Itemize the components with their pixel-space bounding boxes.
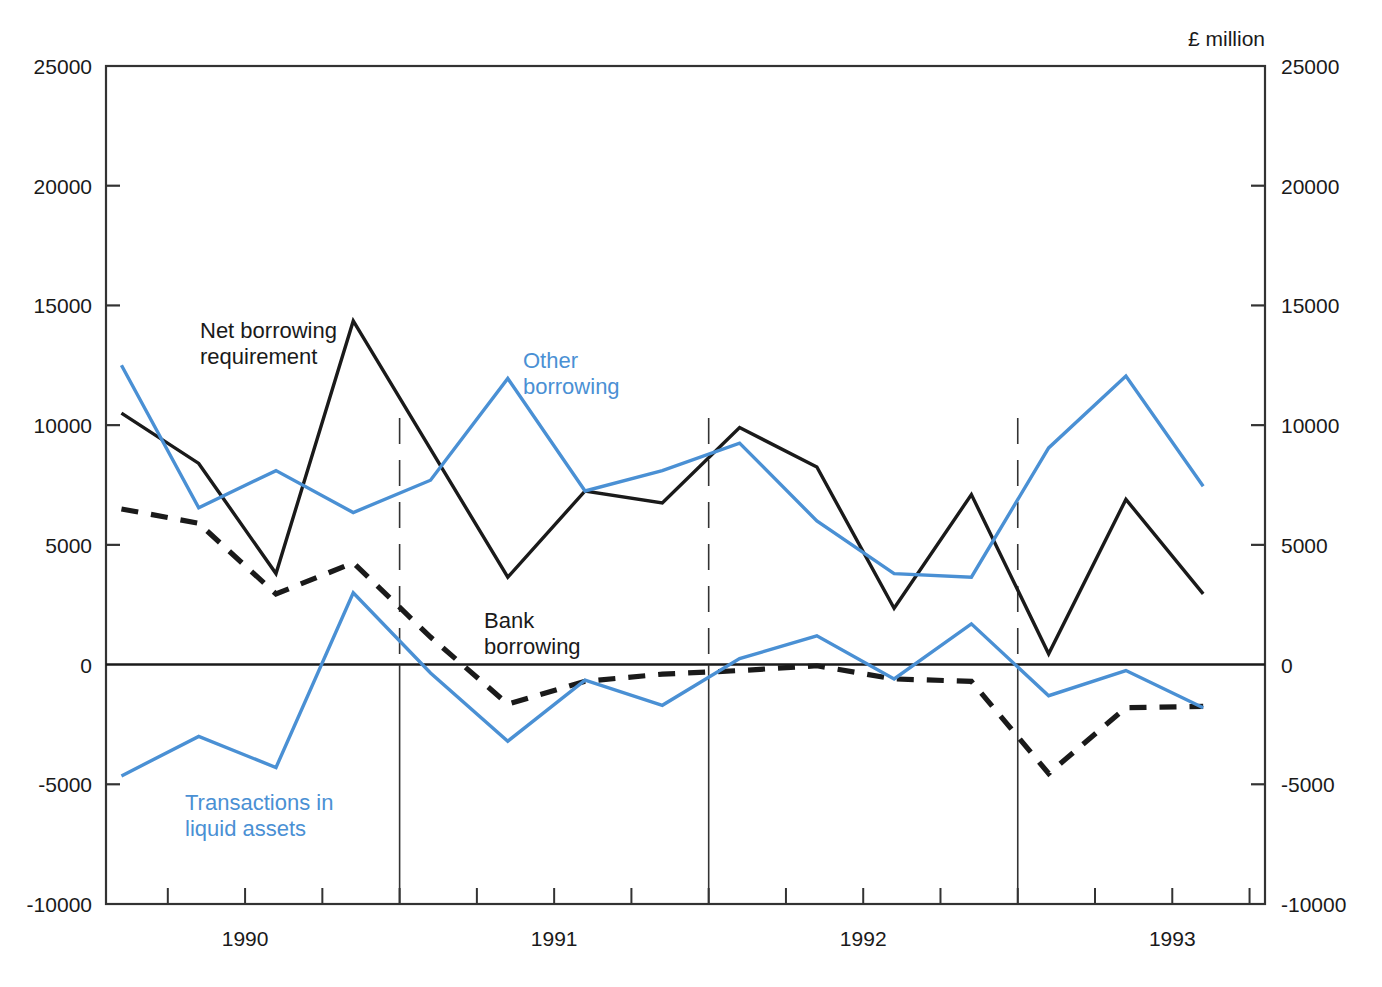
y-tick-label-right: 0 — [1281, 654, 1293, 677]
y-tick-label-right: -5000 — [1281, 773, 1335, 796]
y-tick-label-right: 25000 — [1281, 55, 1339, 78]
y-tick-label-right: 10000 — [1281, 414, 1339, 437]
y-tick-label-right: 20000 — [1281, 175, 1339, 198]
y-tick-label-left: 15000 — [34, 294, 92, 317]
y-tick-label-right: 15000 — [1281, 294, 1339, 317]
x-tick-label: 1993 — [1149, 927, 1196, 950]
transactions-in-liquid-assets-label-line-1: Transactions in — [185, 790, 333, 815]
other-borrowing-label-line-1: Other — [523, 348, 578, 373]
y-tick-label-left: -5000 — [38, 773, 92, 796]
y-tick-label-left: 10000 — [34, 414, 92, 437]
y-tick-label-left: 20000 — [34, 175, 92, 198]
net-borrowing-requirement-label: Net borrowingrequirement — [200, 318, 337, 369]
y-tick-label-left: -10000 — [27, 893, 92, 916]
y-tick-label-right: -10000 — [1281, 893, 1346, 916]
net-borrowing-requirement-label-line-1: Net borrowing — [200, 318, 337, 343]
bank-borrowing-label-line-1: Bank — [484, 608, 535, 633]
transactions-in-liquid-assets-label-line-2: liquid assets — [185, 816, 306, 841]
y-tick-label-left: 25000 — [34, 55, 92, 78]
net-borrowing-requirement-label-line-2: requirement — [200, 344, 317, 369]
chart-figure: £ million 250002500020000200001500015000… — [0, 0, 1382, 987]
bank-borrowing-label-line-2: borrowing — [484, 634, 581, 659]
unit-label: £ million — [1188, 27, 1265, 50]
y-tick-label-right: 5000 — [1281, 534, 1328, 557]
x-tick-label: 1992 — [840, 927, 887, 950]
other-borrowing-label-line-2: borrowing — [523, 374, 620, 399]
x-tick-label: 1991 — [531, 927, 578, 950]
y-tick-label-left: 5000 — [45, 534, 92, 557]
chart-canvas: £ million 250002500020000200001500015000… — [0, 0, 1382, 987]
x-tick-label: 1990 — [222, 927, 269, 950]
y-tick-label-left: 0 — [80, 654, 92, 677]
